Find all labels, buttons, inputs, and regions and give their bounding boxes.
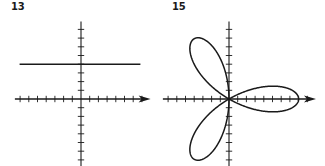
polar-rose-graph-15	[162, 0, 325, 166]
axes	[15, 22, 151, 166]
graph-panel-13: 13	[0, 0, 162, 166]
cartesian-graph-13	[0, 0, 162, 166]
graph-panel-15: 15	[162, 0, 324, 166]
